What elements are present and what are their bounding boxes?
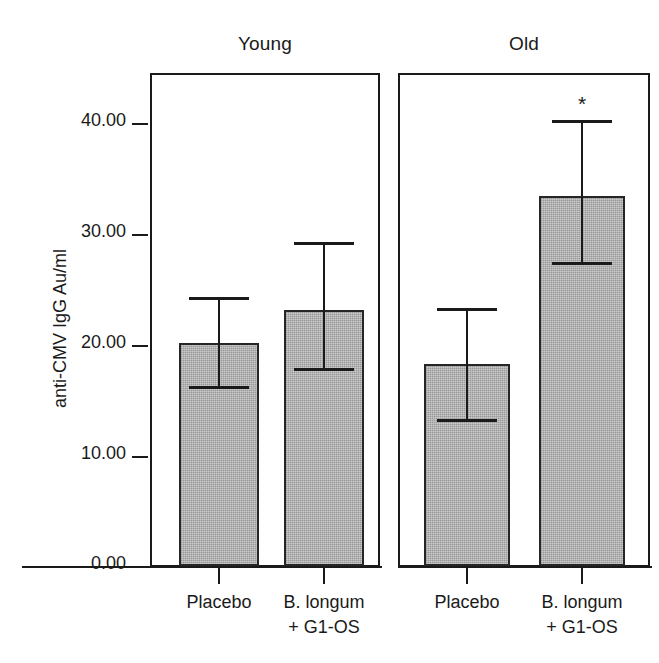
x-tick-label-old-blongum: B. longum + G1-OS — [517, 590, 647, 640]
error-whisker — [466, 311, 468, 422]
x-tick-mark-old-placebo — [466, 566, 468, 584]
y-tick-30: 30.00 — [40, 234, 148, 235]
y-tick-label-10: 10.00 — [81, 443, 126, 464]
panel-title-old: Old — [398, 33, 650, 55]
y-tick-label-20: 20.00 — [81, 332, 126, 353]
plot-area-old: * — [398, 73, 650, 566]
error-whisker — [218, 300, 220, 389]
plot-area-young — [150, 73, 380, 566]
error-cap-lower — [294, 368, 354, 371]
error-whisker — [323, 245, 325, 371]
panel-title-young: Young — [150, 33, 380, 55]
x-label-line1: Placebo — [434, 592, 499, 612]
error-cap-lower — [189, 386, 249, 389]
x-label-line1: B. longum — [283, 592, 364, 612]
x-tick-label-young-blongum: B. longum + G1-OS — [259, 590, 389, 640]
error-cap-upper — [437, 308, 497, 311]
chart-figure: Young Old anti-CMV IgG Au/ml 40.00 30.00… — [0, 0, 659, 663]
y-tick-20: 20.00 — [40, 345, 148, 346]
error-whisker — [581, 123, 583, 265]
x-tick-label-old-placebo: Placebo — [402, 590, 532, 615]
y-tick-mark-20 — [132, 345, 148, 347]
x-label-line2: + G1-OS — [259, 615, 389, 640]
y-tick-mark-40 — [132, 123, 148, 125]
x-axis-line-old — [398, 566, 652, 568]
y-tick-10: 10.00 — [40, 456, 148, 457]
x-label-line1: B. longum — [541, 592, 622, 612]
x-tick-mark-young-blongum — [323, 566, 325, 584]
error-cap-upper — [552, 120, 612, 123]
error-cap-upper — [294, 242, 354, 245]
x-label-line2: + G1-OS — [517, 615, 647, 640]
x-axis-line-young — [22, 566, 382, 568]
x-label-line1: Placebo — [186, 592, 251, 612]
y-axis-label: anti-CMV IgG Au/ml — [50, 174, 71, 484]
significance-star: * — [568, 97, 596, 111]
error-cap-lower — [437, 419, 497, 422]
x-tick-mark-young-placebo — [218, 566, 220, 584]
y-tick-label-40: 40.00 — [81, 110, 126, 131]
y-tick-mark-30 — [132, 234, 148, 236]
error-cap-lower — [552, 262, 612, 265]
error-cap-upper — [189, 297, 249, 300]
x-tick-mark-old-blongum — [581, 566, 583, 584]
y-tick-label-30: 30.00 — [81, 221, 126, 242]
y-tick-mark-10 — [132, 456, 148, 458]
y-tick-40: 40.00 — [40, 123, 148, 124]
y-tick-label-0: 0.00 — [91, 553, 126, 574]
